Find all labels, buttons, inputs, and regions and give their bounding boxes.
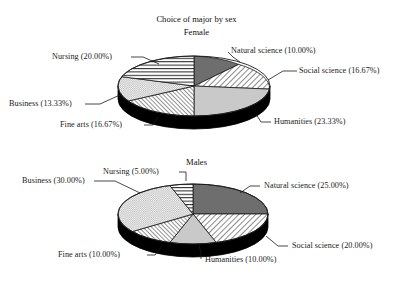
female-label-humanities: Humanities (23.33%) — [274, 117, 345, 126]
female-label-business: Business (13.33%) — [9, 99, 72, 108]
males-label-fine-arts: Fine arts (10.00%) — [58, 250, 120, 259]
males-label-social-science: Social science (20.00%) — [292, 241, 373, 250]
males-label-nursing: Nursing (5.00%) — [103, 167, 159, 176]
figure-canvas: Choice of major by sex Female Males — [0, 0, 393, 282]
males-label-natural-science: Natural science (25.00%) — [264, 181, 349, 190]
pie-charts-svg — [0, 0, 393, 282]
female-label-nursing: Nursing (20.00%) — [52, 52, 112, 61]
males-label-humanities: Humanities (10.00%) — [205, 255, 276, 264]
males-slice-natural-science — [193, 184, 268, 214]
female-pie — [118, 56, 270, 129]
female-label-fine-arts: Fine arts (16.67%) — [60, 120, 122, 129]
female-label-natural-science: Natural science (10.00%) — [231, 46, 316, 55]
males-label-business: Business (30.00%) — [22, 176, 85, 185]
males-pie — [118, 184, 268, 257]
female-label-social-science: Social science (16.67%) — [299, 66, 380, 75]
